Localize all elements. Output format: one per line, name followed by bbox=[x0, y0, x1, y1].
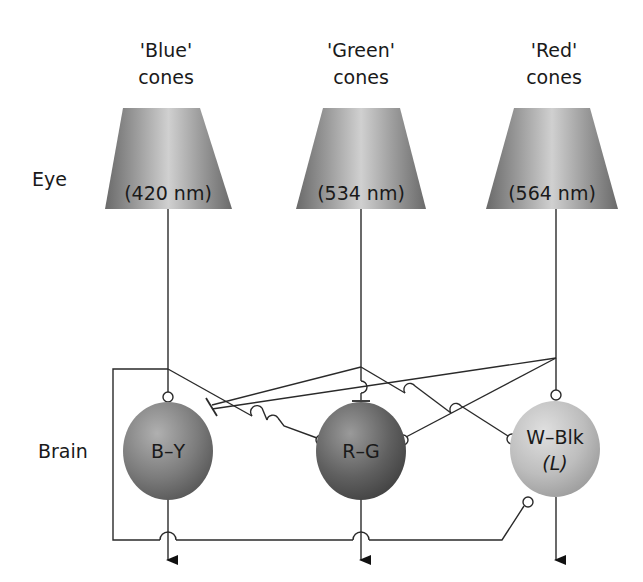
green-cone-wavelength: (534 nm) bbox=[317, 182, 405, 204]
svg-text:cones: cones bbox=[333, 66, 389, 88]
svg-text:cones: cones bbox=[138, 66, 194, 88]
terminal-blue-feedback-to-wblk bbox=[523, 497, 533, 507]
blue-cone-wavelength: (420 nm) bbox=[124, 182, 212, 204]
eye-row-label: Eye bbox=[32, 168, 67, 190]
svg-text:'Red': 'Red' bbox=[531, 39, 578, 61]
terminal-blue-to-by bbox=[163, 392, 173, 402]
red-cone: (564 nm) bbox=[486, 108, 618, 209]
by-channel-cell: B–Y bbox=[123, 402, 213, 500]
brain-row-label: Brain bbox=[38, 440, 88, 462]
by-channel-label: B–Y bbox=[151, 440, 186, 462]
svg-text:'Blue': 'Blue' bbox=[140, 39, 193, 61]
terminal-red-to-wblk bbox=[551, 390, 561, 400]
wblk-channel-label: W–Blk bbox=[526, 426, 584, 448]
output-arrows bbox=[168, 497, 556, 560]
red-cone-label: 'Red' cones bbox=[526, 39, 582, 88]
rg-channel-cell: R–G bbox=[316, 402, 406, 500]
rg-channel-label: R–G bbox=[342, 440, 379, 462]
green-cone-label: 'Green' cones bbox=[327, 39, 395, 88]
blue-cone-label: 'Blue' cones bbox=[138, 39, 194, 88]
blue-cone: (420 nm) bbox=[105, 108, 232, 209]
red-cone-wavelength: (564 nm) bbox=[508, 182, 596, 204]
svg-text:cones: cones bbox=[526, 66, 582, 88]
bar-to-by bbox=[206, 398, 217, 416]
wblk-channel-cell: W–Blk (L) bbox=[510, 401, 600, 497]
green-cone: (534 nm) bbox=[296, 108, 426, 209]
opponent-process-diagram: Eye Brain 'Blue' cones 'Green' cones 'Re… bbox=[0, 0, 643, 582]
wblk-channel-sublabel: (L) bbox=[542, 452, 567, 474]
svg-text:'Green': 'Green' bbox=[327, 39, 395, 61]
